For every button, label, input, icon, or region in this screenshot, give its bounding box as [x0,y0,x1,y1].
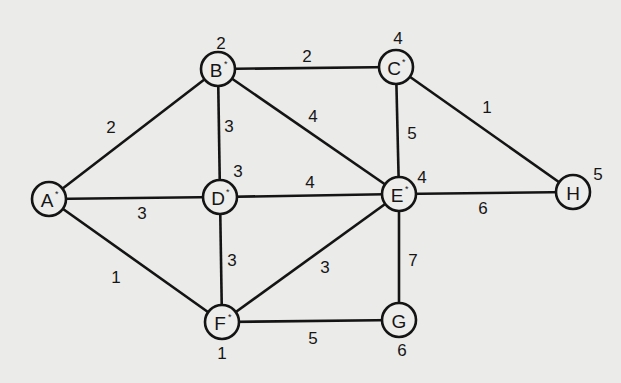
edge-f-g [222,320,399,322]
node-label: G [392,311,407,332]
edge-e-f [222,194,399,322]
node-label: B [210,60,223,81]
edge-a-b [49,69,218,199]
edge-d-f [220,197,222,322]
edge-d-e [220,194,399,197]
marked-star-icon: * [224,59,228,69]
node-value-c: 4 [393,29,402,48]
edge-b-d [218,69,220,197]
node-a: A* [32,182,66,216]
node-value-d: 3 [233,162,242,181]
edge-e-h [399,192,573,194]
edge-weight-e-g: 7 [408,251,417,270]
node-label: A [41,190,54,211]
node-label: H [566,183,580,204]
graph-svg: 23123451433765 A*B*C*D*E*F*GH 2434165 [0,0,621,383]
edge-b-c [218,67,396,69]
node-label: C [387,58,401,79]
edge-weight-c-e: 5 [407,124,416,143]
node-b: B* [201,52,235,86]
node-label: F [214,313,226,334]
marked-star-icon: * [402,57,406,67]
marked-star-icon: * [405,184,409,194]
edge-weight-f-g: 5 [308,329,317,348]
edge-c-e [396,67,399,194]
edge-weight-d-e: 4 [305,173,314,192]
edge-weight-b-e: 4 [308,107,317,126]
node-value-h: 5 [593,165,602,184]
node-g: G [382,303,416,337]
edges-layer [49,67,573,322]
edge-weight-a-d: 3 [137,204,146,223]
edge-weight-c-h: 1 [482,98,491,117]
node-label: E [391,185,404,206]
marked-star-icon: * [226,187,230,197]
edge-weight-e-f: 3 [320,258,329,277]
edge-weight-a-b: 2 [106,118,115,137]
edge-weight-a-f: 1 [111,268,120,287]
node-value-e: 4 [417,168,426,187]
edge-weight-b-c: 2 [302,47,311,66]
node-f: F* [205,305,239,339]
marked-star-icon: * [55,189,59,199]
node-h: H [556,175,590,209]
edge-weight-b-d: 3 [224,117,233,136]
edge-weight-d-f: 3 [227,251,236,270]
graph-diagram: 23123451433765 A*B*C*D*E*F*GH 2434165 [0,0,621,383]
edge-a-f [49,199,222,322]
node-value-g: 6 [397,341,406,360]
node-c: C* [379,50,413,84]
node-value-b: 2 [216,34,225,53]
node-label: D [211,188,225,209]
node-value-f: 1 [217,344,226,363]
node-d: D* [203,180,237,214]
edge-weight-e-h: 6 [478,199,487,218]
marked-star-icon: * [228,312,232,322]
node-e: E* [382,177,416,211]
edge-a-d [49,197,220,199]
